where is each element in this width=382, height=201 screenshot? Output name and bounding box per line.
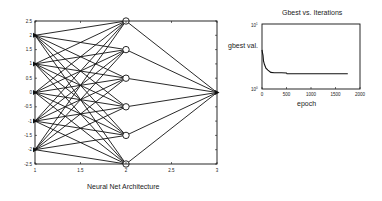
x-tick-label: 0 <box>261 92 264 97</box>
connection-line <box>35 78 126 150</box>
hidden-node-marker <box>123 75 129 81</box>
y-tick-label: 2.5 <box>26 19 33 24</box>
gbest-series-line <box>262 50 348 74</box>
y-tick-label: -1 <box>28 119 32 124</box>
connection-line <box>35 21 126 121</box>
y-tick-label: 1.5 <box>26 47 33 52</box>
connection-line <box>126 50 217 93</box>
x-tick-label: 1 <box>34 168 37 173</box>
network-connections <box>35 21 217 164</box>
left-plot-title: Neural Net Architecture <box>87 183 159 190</box>
connection-line <box>126 93 217 136</box>
connection-line <box>126 93 217 165</box>
right-xlabel: epoch <box>297 100 316 108</box>
connection-line <box>126 78 217 92</box>
connection-line <box>126 21 217 93</box>
x-tick-label: 3 <box>216 168 219 173</box>
figure-canvas: 2.521.510.50-0.5-1-1.5-2-2.5 11.522.53 N… <box>0 0 382 201</box>
x-tick-label: 1500 <box>330 92 341 97</box>
left-axes-box <box>35 21 217 164</box>
connection-line <box>35 21 126 64</box>
connection-line <box>35 21 126 150</box>
connection-line <box>35 107 126 150</box>
y-tick-label: 2 <box>29 33 32 38</box>
connection-line <box>35 150 126 164</box>
gbest-vs-iterations-plot: Gbest vs. Iterations 0500100015002000 10… <box>228 9 366 108</box>
y-tick-label: 0 <box>29 90 32 95</box>
y-tick-label: -2.5 <box>24 162 32 167</box>
connection-line <box>35 21 126 35</box>
y-tick-label: -0.5 <box>24 104 32 109</box>
x-tick-label: 2 <box>125 168 128 173</box>
connection-line <box>35 21 126 93</box>
right-x-ticks: 0500100015002000 <box>261 87 366 97</box>
connection-line <box>35 135 126 149</box>
x-tick-label: 1.5 <box>77 168 84 173</box>
hidden-node-marker <box>123 132 129 138</box>
right-ytick-bottom: 100 <box>251 86 258 92</box>
x-tick-label: 500 <box>283 92 291 97</box>
neural-net-architecture-plot: 2.521.510.50-0.5-1-1.5-2-2.5 11.522.53 N… <box>24 18 219 190</box>
hidden-node-marker <box>123 104 129 110</box>
connection-line <box>35 50 126 150</box>
right-plot-title: Gbest vs. Iterations <box>282 9 343 16</box>
right-ytick-top: 101 <box>251 22 258 28</box>
y-tick-label: -1.5 <box>24 133 32 138</box>
right-axes-box <box>262 24 360 89</box>
y-tick-label: 0.5 <box>26 76 33 81</box>
y-tick-label: 1 <box>29 61 32 66</box>
left-y-ticks: 2.521.510.50-0.5-1-1.5-2-2.5 <box>24 19 217 167</box>
x-tick-label: 2000 <box>355 92 366 97</box>
x-tick-label: 1000 <box>306 92 317 97</box>
x-tick-label: 2.5 <box>168 168 175 173</box>
y-tick-label: -2 <box>28 147 32 152</box>
right-ylabel: gbest val. <box>228 42 258 50</box>
hidden-node-marker <box>123 46 129 52</box>
connection-line <box>126 93 217 107</box>
